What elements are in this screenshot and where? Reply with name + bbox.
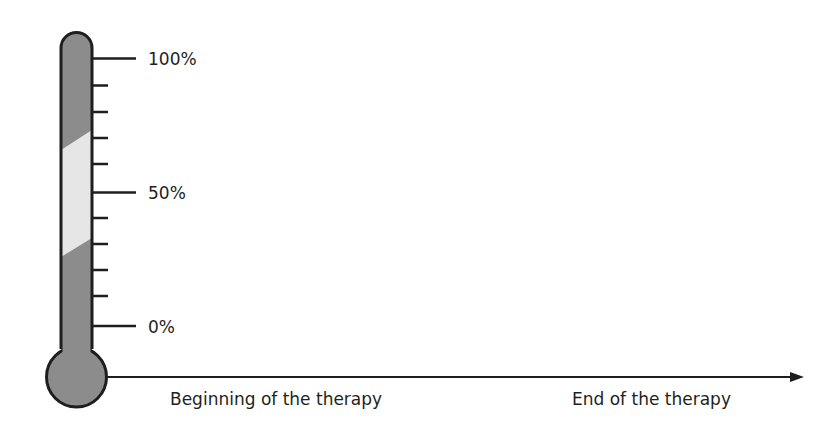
thermometer-tube [61,33,92,361]
label-end-of-therapy: End of the therapy [572,391,731,408]
label-0-percent: 0% [148,319,175,336]
label-100-percent: 100% [148,51,197,68]
time-axis [106,372,804,382]
label-50-percent: 50% [148,185,186,202]
label-beginning-of-therapy: Beginning of the therapy [170,391,382,408]
thermometer-diagram [0,0,838,432]
arrow-head-icon [790,372,804,382]
thermometer-highlight-band [61,130,92,257]
scale-ticks [92,59,136,327]
